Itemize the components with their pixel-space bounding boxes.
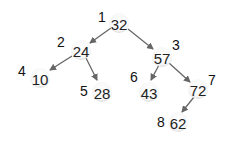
edge-arrow-2-to-4 xyxy=(50,56,72,70)
tree-node-7: 727 xyxy=(188,72,216,99)
node-index-label: 4 xyxy=(18,63,26,79)
node-index-label: 1 xyxy=(98,9,106,25)
edge-arrow-1-to-3 xyxy=(128,29,153,49)
node-index-label: 5 xyxy=(80,83,88,99)
tree-node-3: 573 xyxy=(152,37,180,67)
node-value: 10 xyxy=(32,71,49,88)
tree-node-4: 104 xyxy=(18,63,50,88)
node-value: 32 xyxy=(111,16,128,33)
node-index-label: 8 xyxy=(157,114,165,130)
tree-node-2: 242 xyxy=(57,34,91,60)
edge-arrow-2-to-5 xyxy=(86,58,97,80)
edge-arrow-3-to-7 xyxy=(169,63,190,82)
node-value: 24 xyxy=(73,43,90,60)
tree-node-1: 321 xyxy=(98,9,129,33)
tree-node-5: 285 xyxy=(80,82,112,102)
node-value: 28 xyxy=(94,85,111,102)
edge-arrow-3-to-6 xyxy=(151,65,159,80)
node-value: 72 xyxy=(190,82,207,99)
node-value: 57 xyxy=(154,50,171,67)
binary-tree-diagram: 321242573104285436727628 xyxy=(0,0,227,141)
node-index-label: 2 xyxy=(57,34,65,50)
nodes-layer: 321242573104285436727628 xyxy=(18,9,216,132)
node-index-label: 6 xyxy=(130,69,138,85)
edge-arrow-1-to-2 xyxy=(90,28,111,43)
node-value: 62 xyxy=(170,115,187,132)
tree-node-8: 628 xyxy=(157,112,188,132)
node-index-label: 7 xyxy=(208,72,216,88)
edge-arrow-7-to-8 xyxy=(182,97,194,112)
node-index-label: 3 xyxy=(172,37,180,53)
node-value: 43 xyxy=(141,85,158,102)
